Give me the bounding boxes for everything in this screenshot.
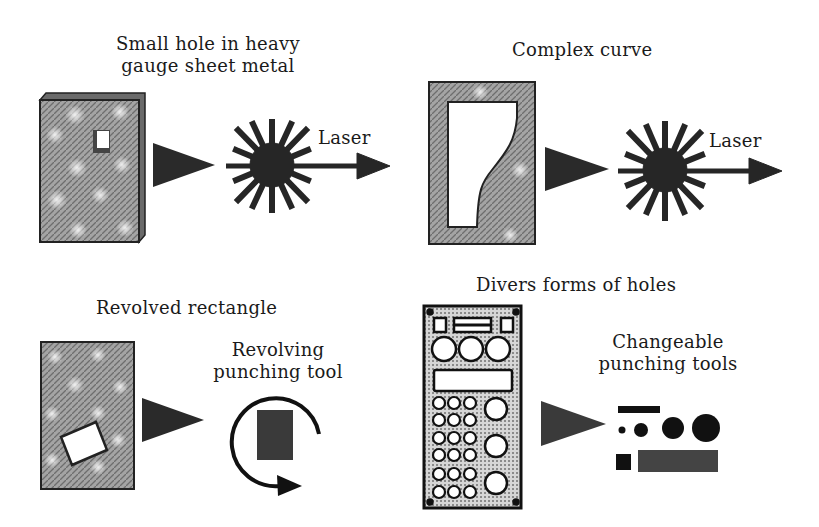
arrow-triangle-icon xyxy=(541,401,606,446)
tool-line: punching tools xyxy=(593,353,743,375)
curve-sheet-icon xyxy=(429,82,535,244)
punching-tools-icon xyxy=(616,406,720,472)
panel-title-complex-curve: Complex curve xyxy=(512,39,652,61)
arrow-triangle-icon xyxy=(142,398,204,442)
panel-title-revolved-rectangle: Revolved rectangle xyxy=(96,297,277,319)
laser-label: Laser xyxy=(318,127,371,149)
arrow-triangle-icon xyxy=(545,147,609,191)
perforated-panel-icon xyxy=(424,306,521,508)
title-line: gauge sheet metal xyxy=(98,55,318,77)
tool-line: punching tool xyxy=(203,361,353,383)
tool-label-changeable: Changeable punching tools xyxy=(593,331,743,375)
tool-line: Changeable xyxy=(593,331,743,353)
heavy-sheet-icon xyxy=(40,93,145,242)
arrow-triangle-icon xyxy=(153,143,215,187)
diagram-canvas xyxy=(0,0,819,527)
revolved-sheet-icon xyxy=(41,342,134,489)
panel-title-small-hole: Small hole in heavy gauge sheet metal xyxy=(98,33,318,77)
panel-title-divers-holes: Divers forms of holes xyxy=(476,274,676,296)
title-line: Small hole in heavy xyxy=(98,33,318,55)
tool-label-revolving: Revolving punching tool xyxy=(203,339,353,383)
revolving-tool-icon xyxy=(232,398,319,496)
tool-line: Revolving xyxy=(203,339,353,361)
laser-label: Laser xyxy=(709,130,762,152)
